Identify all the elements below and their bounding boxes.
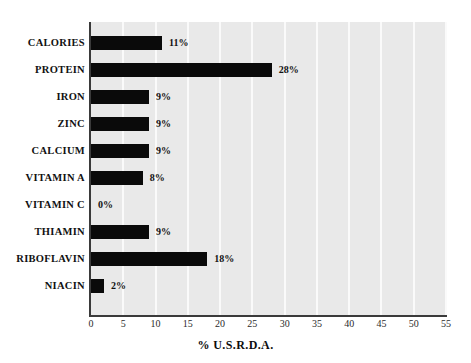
- x-axis-line: [89, 315, 447, 317]
- bar-row: CALORIES11%: [0, 29, 471, 56]
- bar-thiamin: [91, 225, 149, 239]
- bar-row: NIACIN2%: [0, 272, 471, 299]
- bar-value-label: 28%: [279, 56, 299, 83]
- x-tick-label: 5: [108, 318, 138, 329]
- bar-chart: CALORIES11%PROTEIN28%IRON9%ZINC9%CALCIUM…: [0, 0, 471, 363]
- bar-iron: [91, 90, 149, 104]
- category-label-calcium: CALCIUM: [32, 137, 85, 164]
- bar-riboflavin: [91, 252, 207, 266]
- category-label-riboflavin: RIBOFLAVIN: [16, 245, 85, 272]
- category-label-zinc: ZINC: [58, 110, 85, 137]
- category-label-calories: CALORIES: [28, 29, 85, 56]
- x-tick-label: 30: [270, 318, 300, 329]
- category-label-vitamin-a: VITAMIN A: [26, 164, 85, 191]
- bar-value-label: 8%: [150, 164, 165, 191]
- bar-row: VITAMIN A8%: [0, 164, 471, 191]
- bar-niacin: [91, 279, 104, 293]
- bar-row: CALCIUM9%: [0, 137, 471, 164]
- bar-value-label: 18%: [214, 245, 234, 272]
- bar-value-label: 9%: [156, 137, 171, 164]
- x-axis-title: % U.S.R.D.A.: [0, 338, 471, 353]
- x-tick-label: 55: [431, 318, 461, 329]
- bar-value-label: 9%: [156, 218, 171, 245]
- category-label-iron: IRON: [56, 83, 85, 110]
- x-tick-label: 0: [76, 318, 106, 329]
- x-tick-label: 40: [334, 318, 364, 329]
- bar-zinc: [91, 117, 149, 131]
- bar-row: THIAMIN9%: [0, 218, 471, 245]
- bar-value-label: 11%: [169, 29, 188, 56]
- x-tick-label: 50: [399, 318, 429, 329]
- bar-value-label: 2%: [111, 272, 126, 299]
- x-tick-label: 45: [366, 318, 396, 329]
- bar-protein: [91, 63, 272, 77]
- bar-value-label: 9%: [156, 83, 171, 110]
- x-tick-label: 10: [141, 318, 171, 329]
- bar-row: IRON9%: [0, 83, 471, 110]
- bar-row: VITAMIN C0%: [0, 191, 471, 218]
- x-tick-label: 25: [237, 318, 267, 329]
- x-tick-label: 35: [302, 318, 332, 329]
- bar-row: ZINC9%: [0, 110, 471, 137]
- category-label-vitamin-c: VITAMIN C: [25, 191, 85, 218]
- x-tick-label: 15: [173, 318, 203, 329]
- x-tick-label: 20: [205, 318, 235, 329]
- bar-calcium: [91, 144, 149, 158]
- bar-calories: [91, 36, 162, 50]
- bar-row: RIBOFLAVIN18%: [0, 245, 471, 272]
- category-label-protein: PROTEIN: [35, 56, 85, 83]
- bar-vitamin-a: [91, 171, 143, 185]
- category-label-niacin: NIACIN: [45, 272, 85, 299]
- bar-value-label: 9%: [156, 110, 171, 137]
- bar-row: PROTEIN28%: [0, 56, 471, 83]
- bar-value-label: 0%: [98, 191, 113, 218]
- category-label-thiamin: THIAMIN: [34, 218, 85, 245]
